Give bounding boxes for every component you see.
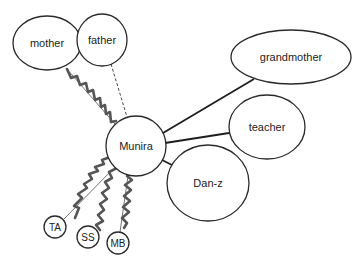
node-ta[interactable]: TA: [44, 216, 66, 238]
node-teacher[interactable]: teacher: [229, 95, 305, 159]
edge-munira-mb-wavy: [122, 172, 132, 228]
social-network-diagram: mother father grandmother teacher Munira…: [0, 0, 361, 270]
node-ss-label: SS: [81, 232, 95, 243]
node-ss[interactable]: SS: [77, 226, 99, 248]
node-grandmother[interactable]: grandmother: [231, 30, 351, 84]
node-munira-label: Munira: [119, 140, 154, 152]
node-mb-label: MB: [111, 238, 126, 249]
node-father[interactable]: father: [77, 14, 127, 66]
edge-munira-ss-wavy: [96, 168, 117, 230]
node-grandmother-label: grandmother: [260, 51, 323, 63]
edge-munira-ta-thin: [64, 169, 113, 219]
node-mother-label: mother: [30, 37, 65, 49]
node-teacher-label: teacher: [249, 121, 286, 133]
node-danz-label: Dan-z: [193, 177, 222, 189]
node-danz[interactable]: Dan-z: [167, 145, 249, 221]
node-mb[interactable]: MB: [107, 232, 129, 254]
node-munira[interactable]: Munira: [106, 116, 166, 176]
edge-munira-danz: [162, 160, 172, 165]
node-mother[interactable]: mother: [13, 16, 81, 70]
node-ta-label: TA: [49, 222, 61, 233]
edge-munira-father-dashed: [111, 64, 127, 117]
edge-munira-teacher: [165, 133, 229, 143]
node-father-label: father: [88, 34, 116, 46]
edge-munira-mother-wavy: [67, 69, 116, 122]
